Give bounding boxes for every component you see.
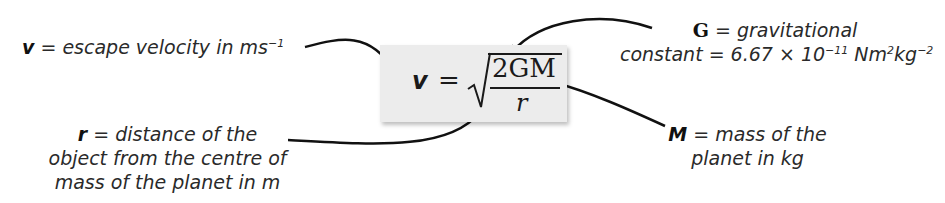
label-v: v = escape velocity in ms−1 (22, 35, 284, 59)
symbol-G: G (693, 19, 709, 41)
formula-numerator: 2GM (492, 53, 556, 83)
formula-equals: = (438, 65, 460, 95)
label-G: G = gravitational constant = 6.67 × 10−1… (620, 18, 930, 66)
label-r: r = distance of the object from the cent… (40, 122, 295, 194)
symbol-r: r (78, 123, 87, 145)
escape-velocity-formula: v = 2GM r (380, 45, 567, 122)
symbol-M: M (668, 123, 687, 145)
formula-denominator: r (516, 89, 527, 117)
formula-v: v (412, 67, 428, 95)
symbol-v: v (22, 36, 34, 58)
formula-box: v = 2GM r (380, 45, 567, 122)
label-M: M = mass of the planet in kg (660, 122, 835, 170)
arrow-M (553, 82, 665, 126)
